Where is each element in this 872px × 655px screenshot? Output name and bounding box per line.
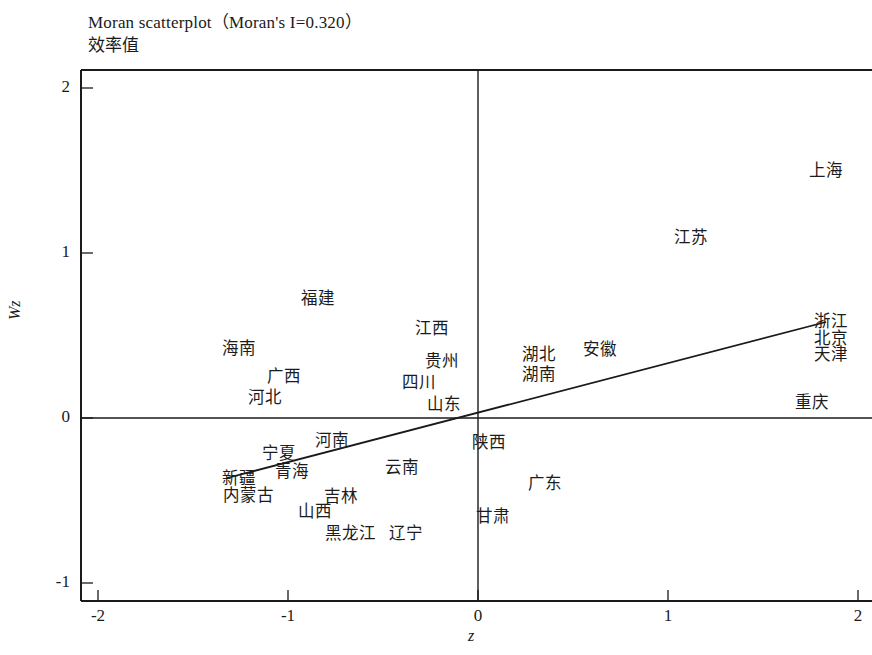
x-tick-label-1: 1	[648, 606, 688, 626]
data-point-label: 湖南	[522, 367, 556, 384]
data-point-label: 陕西	[472, 435, 506, 452]
data-point-label: 山东	[427, 397, 461, 414]
data-point-label: 河南	[315, 433, 349, 450]
data-point-label: 甘肃	[476, 509, 510, 526]
data-point-label: 安徽	[583, 342, 617, 359]
x-tick-label-2: 2	[838, 606, 872, 626]
y-axis-label: Wz	[6, 300, 24, 320]
x-axis-ticks	[98, 590, 858, 601]
data-point-label: 四川	[402, 375, 436, 392]
data-point-label: 湖北	[522, 347, 556, 364]
y-tick-label-2: 2	[30, 77, 70, 97]
x-tick-label--1: -1	[268, 606, 308, 626]
data-point-label: 广东	[528, 476, 562, 493]
x-axis-label: z	[468, 627, 474, 645]
chart-title: Moran scatterplot（Moran's I=0.320）	[88, 8, 362, 33]
x-tick-label--2: -2	[78, 606, 118, 626]
y-tick-label-1: 1	[30, 242, 70, 262]
data-point-label: 江西	[415, 321, 449, 338]
data-point-label: 辽宁	[389, 525, 423, 542]
y-tick-label--1: -1	[30, 572, 70, 592]
data-point-label: 福建	[301, 291, 335, 308]
data-point-label: 上海	[809, 162, 843, 179]
y-axis-ticks	[81, 88, 93, 583]
data-point-label: 贵州	[425, 354, 459, 371]
data-point-label: 河北	[248, 390, 282, 407]
data-point-label: 海南	[222, 340, 256, 357]
data-point-label: 宁夏	[262, 446, 296, 463]
data-point-label: 广西	[267, 369, 301, 386]
data-point-label: 山西	[298, 504, 332, 521]
data-point-label: 重庆	[795, 395, 829, 412]
data-point-label: 天津	[814, 347, 848, 364]
data-point-label: 云南	[385, 459, 419, 476]
data-point-label: 黑龙江	[325, 525, 376, 542]
data-point-label: 内蒙古	[223, 487, 274, 504]
moran-scatterplot-figure: Moran scatterplot（Moran's I=0.320） 效率值 W…	[0, 0, 872, 655]
chart-subtitle: 效率值	[88, 31, 139, 56]
data-point-label: 江苏	[674, 230, 708, 247]
x-tick-label-0: 0	[458, 606, 498, 626]
y-tick-label-0: 0	[30, 407, 70, 427]
data-point-label: 青海	[275, 464, 309, 481]
